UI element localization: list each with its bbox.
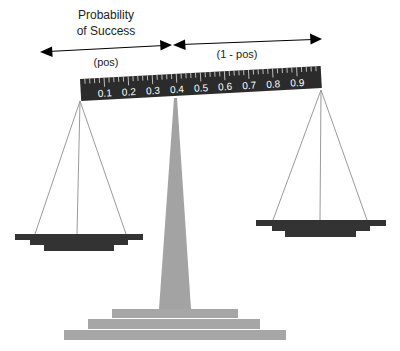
arrowhead-left-icon <box>40 47 53 58</box>
pos-arrow <box>40 40 172 57</box>
ruler-tick-label: 0.3 <box>146 85 161 97</box>
ruler-tick-label: 0.6 <box>218 81 233 93</box>
ruler-tick-label: 0.4 <box>170 83 185 95</box>
ruler-tick-label: 0.7 <box>242 79 257 91</box>
ruler-tick-label: 0.9 <box>290 77 305 89</box>
arrowhead-right-icon <box>310 34 322 45</box>
left-pan-strings <box>35 101 126 234</box>
title-line-2: of Success <box>77 24 136 38</box>
ruler-tick-label: 0.1 <box>98 87 113 99</box>
left-pan <box>15 234 143 251</box>
arrowhead-right-icon <box>160 40 172 51</box>
right-pan <box>256 220 386 237</box>
one-minus-pos-label: (1 - pos) <box>217 48 258 60</box>
pos-label: (pos) <box>93 56 118 68</box>
balance-scale-diagram: Probability of Success (pos) (1 - pos) <box>0 0 400 351</box>
right-pan-strings <box>273 90 367 220</box>
title-line-1: Probability <box>78 8 134 22</box>
ruler-tick-label: 0.2 <box>122 86 137 98</box>
arrowhead-left-icon <box>173 40 186 51</box>
ruler-tick-label: 0.5 <box>194 82 209 94</box>
ruler-tick-label: 0.8 <box>266 78 281 90</box>
base <box>64 309 286 340</box>
probability-ruler: 0.10.20.30.40.50.60.70.80.9 <box>80 66 322 101</box>
fulcrum-pillar <box>159 98 191 309</box>
